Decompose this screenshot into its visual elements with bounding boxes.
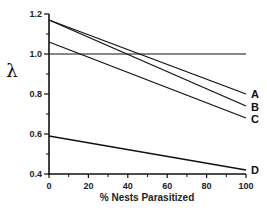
series-label-a: A xyxy=(251,88,259,100)
x-tick-label: 0 xyxy=(46,181,51,191)
series-line-d xyxy=(49,136,246,170)
series-line-c xyxy=(49,42,246,118)
x-tick-label: 80 xyxy=(202,181,212,191)
y-tick-label: 0.6 xyxy=(29,129,42,139)
y-axis-title: λ xyxy=(6,60,17,81)
x-tick-label: 20 xyxy=(83,181,93,191)
x-axis-title: % Nests Parasitized xyxy=(100,192,195,203)
y-tick-label: 0.4 xyxy=(29,169,42,179)
y-tick-label: 1.2 xyxy=(29,9,42,19)
series-label-d: D xyxy=(251,164,259,176)
x-tick-label: 60 xyxy=(162,181,172,191)
y-tick-label: 1.0 xyxy=(29,49,42,59)
axes: 0.40.60.81.01.2020406080100 xyxy=(29,9,253,191)
series-label-b: B xyxy=(251,101,259,113)
series-label-c: C xyxy=(251,113,259,125)
series-line-a xyxy=(49,20,246,94)
line-chart: ABCD 0.40.60.81.01.2020406080100 % Nests… xyxy=(0,0,267,212)
x-tick-label: 40 xyxy=(123,181,133,191)
plot-area: ABCD xyxy=(49,20,259,176)
y-tick-label: 0.8 xyxy=(29,89,42,99)
x-tick-label: 100 xyxy=(238,181,253,191)
series-line-b xyxy=(49,20,246,106)
